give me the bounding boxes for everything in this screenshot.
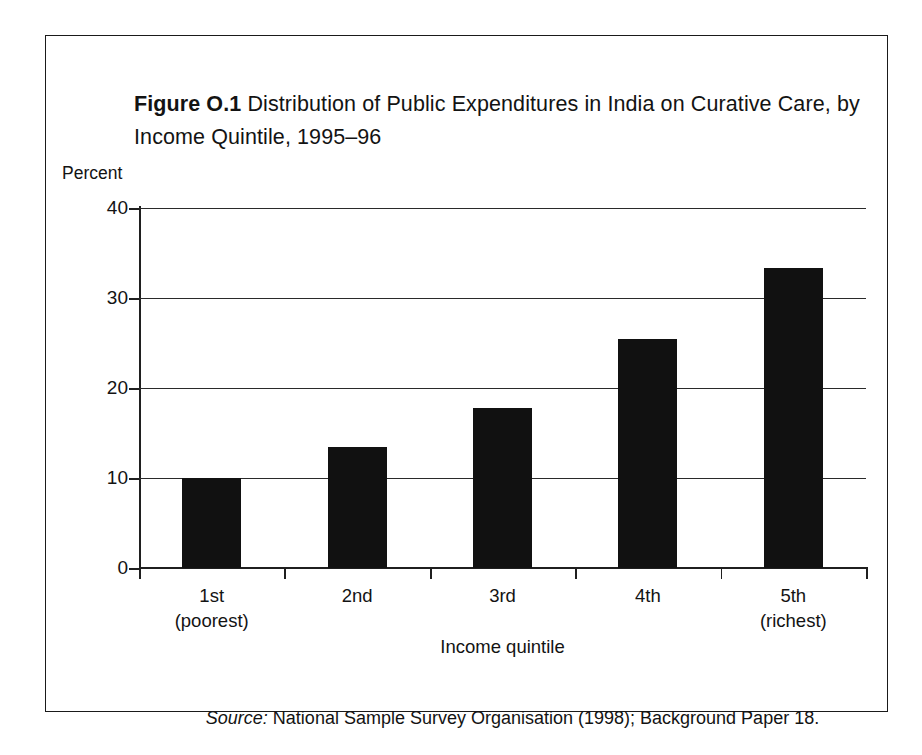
y-tick-label: 10 bbox=[88, 467, 128, 489]
x-category-label: 5th (richest) bbox=[760, 583, 827, 633]
y-tick-mark bbox=[129, 388, 139, 390]
y-axis-title: Percent bbox=[62, 163, 122, 184]
source-note: Source: National Sample Survey Organisat… bbox=[91, 708, 922, 729]
figure-title-text: Distribution of Public Expenditures in I… bbox=[134, 92, 860, 149]
y-axis-tick-labels: 010203040 bbox=[84, 208, 128, 568]
bar bbox=[182, 478, 241, 568]
y-tick-label: 30 bbox=[88, 287, 128, 309]
y-tick-label: 40 bbox=[88, 197, 128, 219]
y-tick-label: 20 bbox=[88, 377, 128, 399]
x-tick-mark bbox=[430, 568, 432, 579]
y-tick-mark bbox=[129, 208, 139, 210]
x-tick-mark bbox=[721, 568, 723, 579]
x-tick-mark bbox=[139, 568, 141, 579]
x-category-label: 2nd bbox=[342, 583, 373, 608]
bar bbox=[764, 268, 823, 568]
gridline bbox=[139, 298, 866, 299]
bar bbox=[618, 339, 677, 569]
bar bbox=[473, 408, 532, 568]
x-category-label: 3rd bbox=[489, 583, 516, 608]
y-tick-mark bbox=[129, 568, 139, 570]
source-citation-text: National Sample Survey Organisation (199… bbox=[268, 708, 819, 728]
bar bbox=[328, 447, 387, 569]
x-tick-mark bbox=[284, 568, 286, 579]
y-tick-mark bbox=[129, 478, 139, 480]
y-tick-mark bbox=[129, 298, 139, 300]
y-tick-label: 0 bbox=[88, 557, 128, 579]
gridline bbox=[139, 208, 866, 209]
gridline bbox=[139, 388, 866, 389]
x-category-label: 4th bbox=[635, 583, 661, 608]
figure-number-label: Figure O.1 bbox=[134, 92, 241, 116]
source-label: Source: bbox=[206, 708, 268, 728]
x-tick-mark bbox=[575, 568, 577, 579]
x-axis-title: Income quintile bbox=[139, 636, 866, 658]
figure-title: Figure O.1 Distribution of Public Expend… bbox=[134, 88, 894, 154]
x-tick-mark bbox=[866, 568, 868, 579]
x-category-label: 1st (poorest) bbox=[175, 583, 249, 633]
plot-area bbox=[139, 208, 866, 568]
